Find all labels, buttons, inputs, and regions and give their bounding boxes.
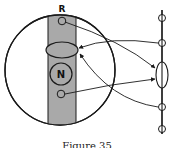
band-bottom-small-circle xyxy=(57,90,65,98)
diagram-canvas: R N xyxy=(0,0,174,148)
figure-caption: Figure 35 xyxy=(0,140,174,148)
axis xyxy=(156,10,168,134)
nucleus-label: N xyxy=(57,69,65,80)
band-label: R xyxy=(59,4,66,14)
band-ellipse xyxy=(46,42,78,58)
band-top-small-circle xyxy=(58,17,66,25)
